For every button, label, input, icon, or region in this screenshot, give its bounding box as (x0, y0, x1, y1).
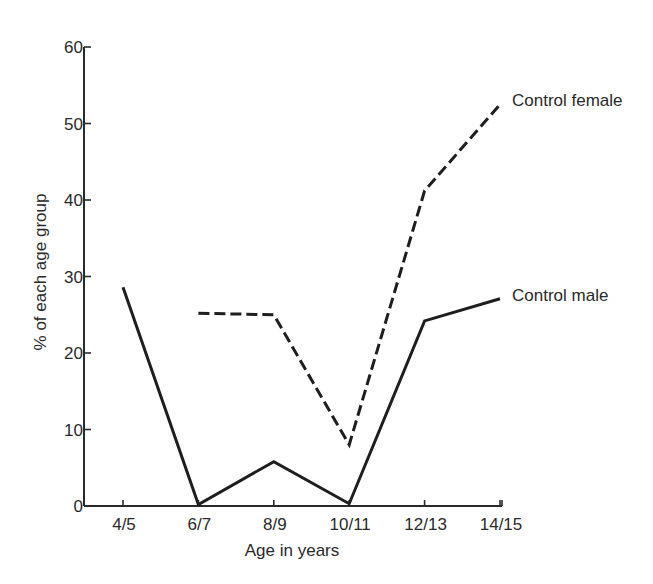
series-line-control-female (198, 104, 500, 444)
y-tick-label: 10 (64, 421, 83, 440)
x-tick-label: 6/7 (188, 515, 212, 534)
y-axis-title: % of each age group (31, 194, 50, 351)
y-tick-label: 50 (64, 115, 83, 134)
series-line-control-male (123, 287, 500, 504)
x-axis-title: Age in years (245, 541, 340, 560)
y-tick-label: 30 (64, 268, 83, 287)
x-axis: 4/56/78/910/1112/1314/15 (84, 500, 522, 534)
y-tick-label: 40 (64, 191, 83, 210)
x-tick-label: 10/11 (330, 515, 371, 534)
series-layer: Control femaleControl male (123, 91, 623, 504)
y-axis: 0102030405060 (64, 38, 91, 516)
x-tick-label: 12/13 (404, 515, 447, 534)
x-tick-label: 8/9 (263, 515, 287, 534)
series-label: Control male (512, 286, 608, 305)
series-label: Control female (512, 91, 623, 110)
x-tick-label: 14/15 (480, 515, 523, 534)
y-tick-label: 20 (64, 344, 83, 363)
y-tick-label: 60 (64, 38, 83, 57)
x-tick-label: 4/5 (112, 515, 136, 534)
line-chart: 0102030405060 4/56/78/910/1112/1314/15 %… (0, 0, 653, 584)
y-tick-label: 0 (74, 497, 83, 516)
